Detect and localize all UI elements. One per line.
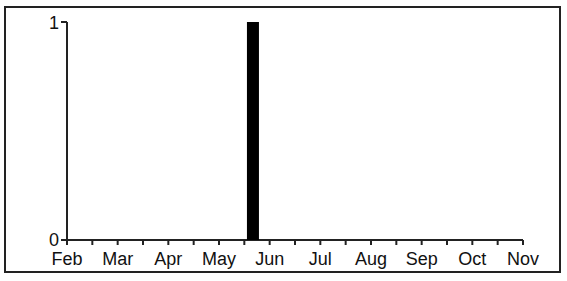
x-tick-label: Mar bbox=[102, 249, 133, 269]
bar-chart: FebMarAprMayJunJulAugSepOctNov 01 bbox=[0, 0, 567, 281]
bar bbox=[247, 22, 259, 240]
x-tick-label: Oct bbox=[458, 249, 486, 269]
bars bbox=[247, 22, 259, 240]
x-tick-label: Nov bbox=[507, 249, 539, 269]
x-tick-label: May bbox=[202, 249, 236, 269]
y-axis-labels: 01 bbox=[49, 13, 59, 250]
x-tick-label: Jun bbox=[255, 249, 284, 269]
y-tick-label: 0 bbox=[49, 230, 59, 250]
x-axis-labels: FebMarAprMayJunJulAugSepOctNov bbox=[51, 249, 539, 269]
y-tick-label: 1 bbox=[49, 13, 59, 33]
axes bbox=[61, 22, 523, 245]
x-tick-label: Feb bbox=[51, 249, 82, 269]
x-tick-label: Jul bbox=[309, 249, 332, 269]
x-tick-label: Aug bbox=[355, 249, 387, 269]
x-tick-label: Apr bbox=[154, 249, 182, 269]
x-tick-label: Sep bbox=[406, 249, 438, 269]
